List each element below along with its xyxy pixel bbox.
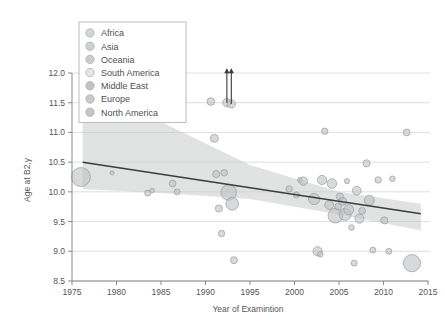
y-tick-label: 11.0 bbox=[49, 127, 65, 137]
data-bubble bbox=[317, 175, 326, 184]
data-bubble bbox=[370, 247, 376, 253]
y-tick-label: 9.0 bbox=[53, 246, 65, 256]
y-axis-title: Age at B2,y bbox=[22, 157, 32, 202]
data-bubble bbox=[213, 170, 220, 177]
y-tick-label: 9.5 bbox=[53, 217, 65, 227]
data-bubble bbox=[359, 207, 366, 214]
data-bubble bbox=[322, 128, 328, 134]
x-tick-label: 1975 bbox=[63, 287, 82, 297]
data-bubble bbox=[308, 193, 319, 204]
legend-label-north-america[interactable]: North America bbox=[101, 108, 158, 118]
legend: AfricaAsiaOceaniaSouth AmericaMiddle Eas… bbox=[79, 22, 186, 122]
legend-label-asia[interactable]: Asia bbox=[101, 42, 119, 52]
data-bubble bbox=[207, 98, 215, 106]
data-bubble bbox=[150, 188, 154, 192]
data-bubble bbox=[363, 160, 370, 167]
data-bubble bbox=[230, 257, 237, 264]
data-bubble bbox=[174, 189, 180, 195]
data-bubble bbox=[352, 186, 361, 195]
legend-marker-south-america[interactable] bbox=[86, 68, 94, 76]
data-bubble bbox=[375, 177, 381, 183]
data-bubble bbox=[403, 255, 420, 272]
legend-label-middle-east[interactable]: Middle East bbox=[101, 81, 149, 91]
x-tick-label: 1985 bbox=[152, 287, 171, 297]
legend-label-africa[interactable]: Africa bbox=[101, 28, 124, 38]
data-bubble bbox=[351, 260, 357, 266]
data-bubble bbox=[403, 129, 410, 136]
data-bubble bbox=[215, 205, 222, 212]
data-bubble bbox=[381, 217, 388, 224]
y-tick-label: 8.5 bbox=[53, 276, 65, 286]
x-axis-title: Year of Examintion bbox=[212, 304, 283, 314]
data-bubble bbox=[390, 176, 396, 182]
data-bubble bbox=[344, 179, 349, 184]
data-bubble bbox=[286, 186, 292, 192]
legend-marker-africa[interactable] bbox=[86, 29, 94, 37]
data-bubble bbox=[325, 201, 334, 210]
legend-marker-oceania[interactable] bbox=[86, 55, 94, 63]
data-bubble bbox=[355, 214, 364, 223]
data-bubble bbox=[299, 177, 307, 185]
data-bubble bbox=[210, 134, 218, 142]
legend-marker-asia[interactable] bbox=[86, 42, 94, 50]
data-bubble bbox=[327, 179, 337, 189]
y-tick-label: 10.0 bbox=[48, 187, 65, 197]
legend-marker-north-america[interactable] bbox=[86, 108, 94, 116]
data-bubble bbox=[218, 230, 224, 236]
data-bubble bbox=[344, 205, 354, 215]
data-bubble bbox=[71, 168, 90, 187]
data-bubble bbox=[110, 171, 114, 175]
x-tick-label: 2000 bbox=[285, 287, 304, 297]
x-tick-label: 1990 bbox=[196, 287, 215, 297]
legend-marker-europe[interactable] bbox=[86, 95, 94, 103]
data-bubble bbox=[169, 180, 176, 187]
y-tick-label: 12.0 bbox=[48, 68, 65, 78]
x-tick-label: 2015 bbox=[419, 287, 438, 297]
data-bubble bbox=[349, 225, 355, 231]
data-bubble bbox=[226, 197, 239, 210]
data-bubble bbox=[364, 195, 374, 205]
x-tick-label: 2010 bbox=[374, 287, 393, 297]
y-tick-label: 11.5 bbox=[49, 98, 65, 108]
bubble-chart-figure: 8.59.09.510.010.511.011.512.0 1975198019… bbox=[0, 0, 445, 327]
data-bubble bbox=[386, 248, 392, 254]
legend-label-south-america[interactable]: South America bbox=[101, 68, 160, 78]
x-tick-label: 1995 bbox=[241, 287, 260, 297]
legend-label-europe[interactable]: Europe bbox=[101, 94, 130, 104]
x-tick-label: 2005 bbox=[330, 287, 349, 297]
legend-label-oceania[interactable]: Oceania bbox=[101, 55, 135, 65]
scatter-plot-svg: 8.59.09.510.010.511.011.512.0 1975198019… bbox=[0, 0, 445, 327]
y-tick-label: 10.5 bbox=[48, 157, 65, 167]
data-bubble bbox=[318, 251, 324, 257]
legend-marker-middle-east[interactable] bbox=[86, 82, 94, 90]
data-bubble bbox=[221, 170, 228, 177]
x-tick-label: 1980 bbox=[107, 287, 126, 297]
